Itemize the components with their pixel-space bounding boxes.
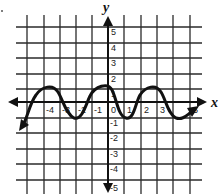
svg-text:0: 0 xyxy=(111,105,116,115)
x-axis-right-arrow-icon xyxy=(197,97,207,107)
svg-text:-4: -4 xyxy=(46,105,54,115)
svg-text:3: 3 xyxy=(160,105,165,115)
svg-text:4: 4 xyxy=(111,43,116,53)
stray-dot xyxy=(1,10,3,12)
x-axis-label: x xyxy=(210,95,218,110)
y-axis-up-arrow-icon xyxy=(103,16,113,26)
svg-text:2: 2 xyxy=(111,74,116,84)
coordinate-graph: x y 5 4 3 2 1 -1 -2 -3 -4 -5 -4 -3 -2 -1… xyxy=(0,0,220,194)
svg-text:3: 3 xyxy=(111,58,116,68)
svg-text:-2: -2 xyxy=(110,133,118,143)
svg-text:2: 2 xyxy=(144,105,149,115)
svg-text:-1: -1 xyxy=(110,118,118,128)
svg-text:-3: -3 xyxy=(110,149,118,159)
svg-text:-4: -4 xyxy=(110,164,118,174)
svg-text:-1: -1 xyxy=(94,105,102,115)
svg-text:5: 5 xyxy=(111,27,116,37)
y-axis-label: y xyxy=(101,0,110,15)
svg-text:-5: -5 xyxy=(110,183,118,193)
x-axis-left-arrow-icon xyxy=(8,97,18,107)
